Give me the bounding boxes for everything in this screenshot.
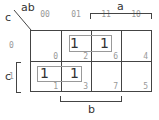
bracket-b xyxy=(60,96,122,102)
column-label-01: 01 xyxy=(61,10,91,19)
bracket-c xyxy=(16,62,21,93)
bracket-b-label: b xyxy=(88,103,95,116)
minterm-index: 0 xyxy=(53,52,58,61)
minterm-index: 1 xyxy=(53,82,58,91)
minterm-index: 6 xyxy=(113,52,118,61)
row-variable-label: c xyxy=(5,11,11,24)
cell-m0: 0 xyxy=(31,31,61,62)
cell-m5: 5 xyxy=(121,61,151,92)
column-label-00: 00 xyxy=(30,10,60,19)
bracket-a xyxy=(90,13,152,19)
row-label-0: 0 xyxy=(9,41,14,50)
minterm-index: 4 xyxy=(143,52,148,61)
bracket-c-label: c xyxy=(5,70,11,83)
group-loop-m2-m6 xyxy=(69,35,112,52)
minterm-index: 7 xyxy=(113,82,118,91)
group-loop-m1-m3 xyxy=(37,66,82,82)
minterm-index: 2 xyxy=(83,52,88,61)
cell-m4: 4 xyxy=(121,31,151,62)
minterm-index: 5 xyxy=(143,82,148,91)
minterm-index: 3 xyxy=(83,82,88,91)
bracket-a-label: a xyxy=(117,0,124,13)
cell-m7: 7 xyxy=(91,61,121,92)
